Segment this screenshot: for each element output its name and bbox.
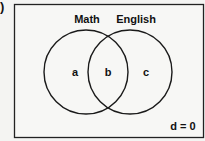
region-b-label: b	[105, 66, 112, 78]
english-set-label: English	[116, 13, 156, 25]
math-set-label: Math	[74, 13, 100, 25]
region-c-label: c	[143, 66, 149, 78]
region-a-label: a	[72, 66, 79, 78]
venn-diagram: Math English a b c d = 0	[0, 0, 205, 141]
outside-region-d-label: d = 0	[170, 120, 195, 132]
